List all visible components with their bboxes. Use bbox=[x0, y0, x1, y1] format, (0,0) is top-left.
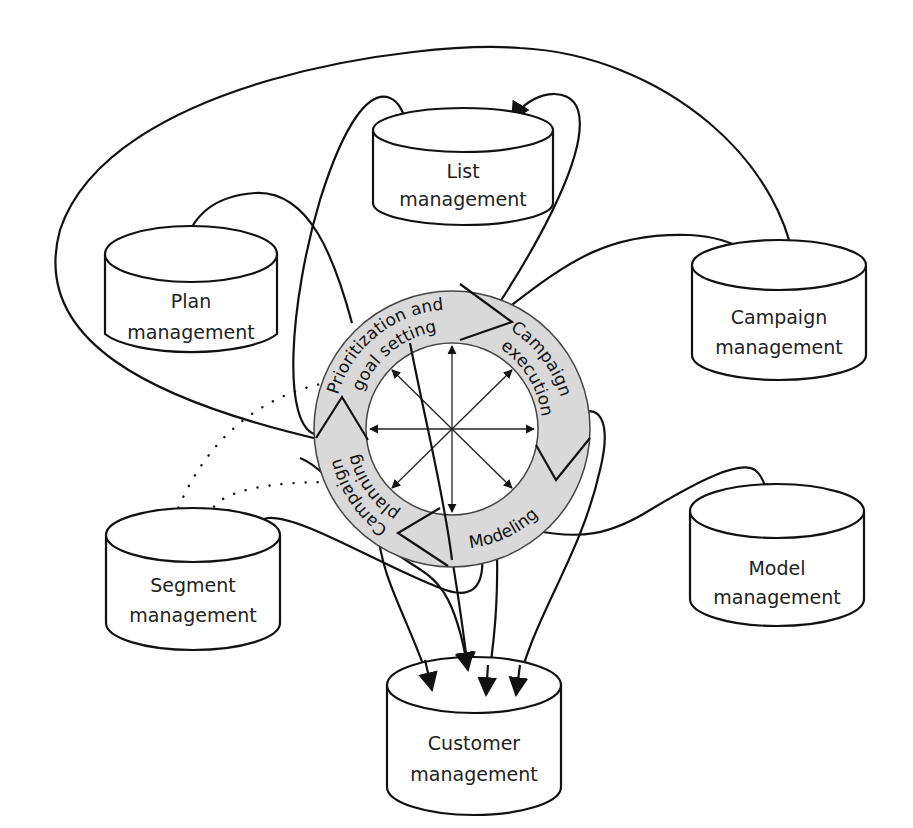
database-segment-management[interactable]: Segment management bbox=[106, 508, 280, 650]
db-label-line2: management bbox=[399, 188, 526, 210]
db-label-line1: Segment bbox=[150, 574, 236, 596]
db-label-line1: Customer bbox=[428, 732, 520, 754]
database-campaign-management[interactable]: Campaign management bbox=[692, 240, 866, 380]
db-label-line2: management bbox=[713, 586, 840, 608]
db-label-line1: Plan bbox=[171, 290, 211, 312]
database-plan-management[interactable]: Plan management bbox=[105, 226, 277, 352]
db-label-line2: management bbox=[129, 604, 256, 626]
database-list-management[interactable]: List management bbox=[373, 108, 553, 225]
db-label-line1: List bbox=[446, 160, 479, 182]
database-model-management[interactable]: Model management bbox=[690, 484, 864, 626]
database-customer-management[interactable]: Customer management bbox=[387, 657, 561, 815]
marketing-process-diagram: List management Plan management Campaign… bbox=[0, 0, 913, 828]
db-label-line2: management bbox=[410, 763, 537, 785]
db-label-line2: management bbox=[127, 321, 254, 343]
db-label-line1: Model bbox=[748, 557, 805, 579]
db-label-line1: Campaign bbox=[731, 306, 828, 328]
db-label-line2: management bbox=[715, 336, 842, 358]
